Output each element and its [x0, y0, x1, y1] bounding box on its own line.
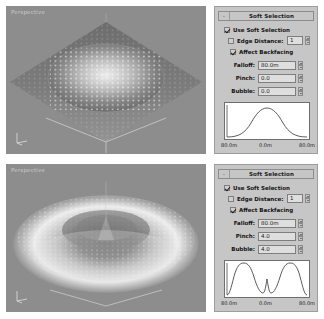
graph-axis-labels-top: 80.0m 0.0m 80.0m [221, 142, 315, 150]
checkbox-label-affect-backfacing: Affect Backfacing [239, 206, 293, 214]
falloff-input[interactable]: 80.0m [258, 219, 296, 228]
bubble-label: Bubble: [223, 245, 255, 253]
rollout-header-soft-selection[interactable]: - Soft Selection [218, 11, 314, 21]
perspective-viewport-top[interactable]: Perspective [6, 6, 206, 154]
falloff-label: Falloff: [223, 219, 255, 227]
soft-selection-dome-render [6, 6, 206, 154]
spin-down-icon[interactable] [298, 249, 303, 254]
checkbox-label-use-soft-selection: Use Soft Selection [233, 184, 290, 192]
spin-down-icon[interactable] [298, 91, 303, 96]
spin-down-icon[interactable] [298, 65, 303, 70]
axis-label-right: 80.0m [299, 142, 315, 149]
rollout-minimize-icon[interactable]: - [219, 12, 230, 20]
checkbox-box-edge-distance[interactable] [228, 196, 234, 202]
figure-row-top: Perspective - Soft Selection Use Soft Se… [0, 6, 324, 158]
edge-distance-input[interactable]: 1 [287, 36, 303, 45]
bubble-spin-arrows[interactable] [298, 87, 303, 96]
field-row-bubble[interactable]: Bubble: 4.0 [223, 244, 303, 254]
falloff-spin-arrows[interactable] [298, 219, 303, 228]
field-row-falloff[interactable]: Falloff: 80.0m [223, 60, 303, 70]
pinch-label: Pinch: [223, 232, 255, 240]
bubble-input[interactable]: 0.0 [258, 87, 296, 96]
spin-down-icon[interactable] [305, 198, 310, 203]
spin-down-icon[interactable] [298, 223, 303, 228]
rollout-title: Soft Selection [230, 170, 313, 178]
checkbox-box-use-soft-selection[interactable] [224, 27, 230, 33]
spin-down-icon[interactable] [305, 40, 310, 45]
checkbox-affect-backfacing[interactable]: Affect Backfacing [230, 47, 293, 56]
soft-selection-panel-bottom: - Soft Selection Use Soft Selection Edge… [214, 164, 318, 312]
checkbox-use-soft-selection[interactable]: Use Soft Selection [224, 183, 290, 192]
perspective-viewport-bottom[interactable]: Perspective [6, 164, 206, 312]
rollout-minimize-icon[interactable]: - [219, 170, 230, 178]
checkbox-edge-distance[interactable]: Edge Distance: [228, 36, 283, 45]
viewport-render-top [6, 6, 206, 154]
pinch-spin-arrows[interactable] [298, 232, 303, 241]
viewport-render-bottom [6, 164, 206, 312]
falloff-spin-arrows[interactable] [298, 61, 303, 70]
checkbox-box-edge-distance[interactable] [228, 38, 234, 44]
figure-row-bottom: Perspective - Soft Selection Use Soft Se… [0, 164, 324, 316]
checkbox-label-edge-distance: Edge Distance: [237, 195, 283, 203]
axis-tripod-icon [14, 288, 30, 304]
axis-label-right: 80.0m [299, 300, 315, 307]
viewport-label-bottom: Perspective [11, 167, 45, 174]
field-row-pinch[interactable]: Pinch: 0.0 [223, 73, 303, 83]
spin-down-icon[interactable] [298, 236, 303, 241]
axis-label-left: 80.0m [221, 142, 237, 149]
checkbox-box-use-soft-selection[interactable] [224, 185, 230, 191]
checkbox-box-affect-backfacing[interactable] [230, 207, 236, 213]
field-row-pinch[interactable]: Pinch: 4.0 [223, 231, 303, 241]
bubble-spin-arrows[interactable] [298, 245, 303, 254]
edge-distance-spin-arrows[interactable] [305, 36, 310, 45]
checkbox-label-affect-backfacing: Affect Backfacing [239, 48, 293, 56]
checkbox-box-affect-backfacing[interactable] [230, 49, 236, 55]
edge-distance-spinner[interactable]: 1 [287, 35, 310, 45]
checkbox-edge-distance[interactable]: Edge Distance: [228, 194, 283, 203]
axis-label-center: 0.0m [259, 300, 272, 307]
edge-distance-input[interactable]: 1 [287, 194, 303, 203]
checkbox-use-soft-selection[interactable]: Use Soft Selection [224, 25, 290, 34]
pinch-input[interactable]: 0.0 [258, 74, 296, 83]
edge-distance-spin-arrows[interactable] [305, 194, 310, 203]
falloff-curve [225, 103, 309, 139]
pinch-input[interactable]: 4.0 [258, 232, 296, 241]
checkbox-label-edge-distance: Edge Distance: [237, 37, 283, 45]
edge-distance-spinner[interactable]: 1 [287, 193, 310, 203]
axis-label-left: 80.0m [221, 300, 237, 307]
soft-selection-crater-render [6, 164, 206, 312]
figure-root: Perspective - Soft Selection Use Soft Se… [0, 0, 324, 319]
falloff-input[interactable]: 80.0m [258, 61, 296, 70]
bubble-label: Bubble: [223, 87, 255, 95]
pinch-spin-arrows[interactable] [298, 74, 303, 83]
checkbox-label-use-soft-selection: Use Soft Selection [233, 26, 290, 34]
checkbox-affect-backfacing[interactable]: Affect Backfacing [230, 205, 293, 214]
spin-down-icon[interactable] [298, 78, 303, 83]
soft-selection-panel-top: - Soft Selection Use Soft Selection Edge… [214, 6, 318, 154]
field-row-bubble[interactable]: Bubble: 0.0 [223, 86, 303, 96]
falloff-label: Falloff: [223, 61, 255, 69]
axis-label-center: 0.0m [259, 142, 272, 149]
bubble-input[interactable]: 4.0 [258, 245, 296, 254]
viewport-label-top: Perspective [11, 9, 45, 16]
axis-tripod-icon [14, 130, 30, 146]
rollout-title: Soft Selection [230, 12, 313, 20]
rollout-header-soft-selection[interactable]: - Soft Selection [218, 169, 314, 179]
pinch-label: Pinch: [223, 74, 255, 82]
field-row-falloff[interactable]: Falloff: 80.0m [223, 218, 303, 228]
falloff-curve-graph-top [224, 102, 310, 140]
falloff-curve [225, 261, 309, 297]
graph-axis-labels-bottom: 80.0m 0.0m 80.0m [221, 300, 315, 308]
falloff-curve-graph-bottom [224, 260, 310, 298]
